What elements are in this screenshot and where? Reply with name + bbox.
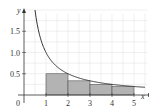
rectangle bbox=[68, 81, 90, 95]
x-tick-label: 5 bbox=[132, 99, 136, 108]
x-axis-label: x bbox=[140, 92, 145, 101]
rectangle bbox=[46, 74, 68, 95]
x-tick-label: 1 bbox=[44, 99, 48, 108]
rectangle bbox=[112, 87, 134, 96]
chart: 123450.51.01.5 y x 0 bbox=[0, 0, 149, 111]
x-tick-label: 4 bbox=[110, 99, 114, 108]
ticks: 123450.51.01.5 bbox=[10, 27, 136, 108]
x-tick-label: 3 bbox=[88, 99, 92, 108]
y-axis-label: y bbox=[16, 6, 21, 15]
x-axis-arrow bbox=[148, 93, 149, 97]
y-tick-label: 1.0 bbox=[10, 49, 20, 58]
y-axis-arrow bbox=[22, 8, 26, 13]
y-tick-label: 1.5 bbox=[10, 27, 20, 36]
y-tick-label: 0.5 bbox=[10, 70, 20, 79]
x-tick-label: 2 bbox=[66, 99, 70, 108]
rectangle bbox=[90, 84, 112, 95]
origin-label: 0 bbox=[16, 99, 20, 108]
